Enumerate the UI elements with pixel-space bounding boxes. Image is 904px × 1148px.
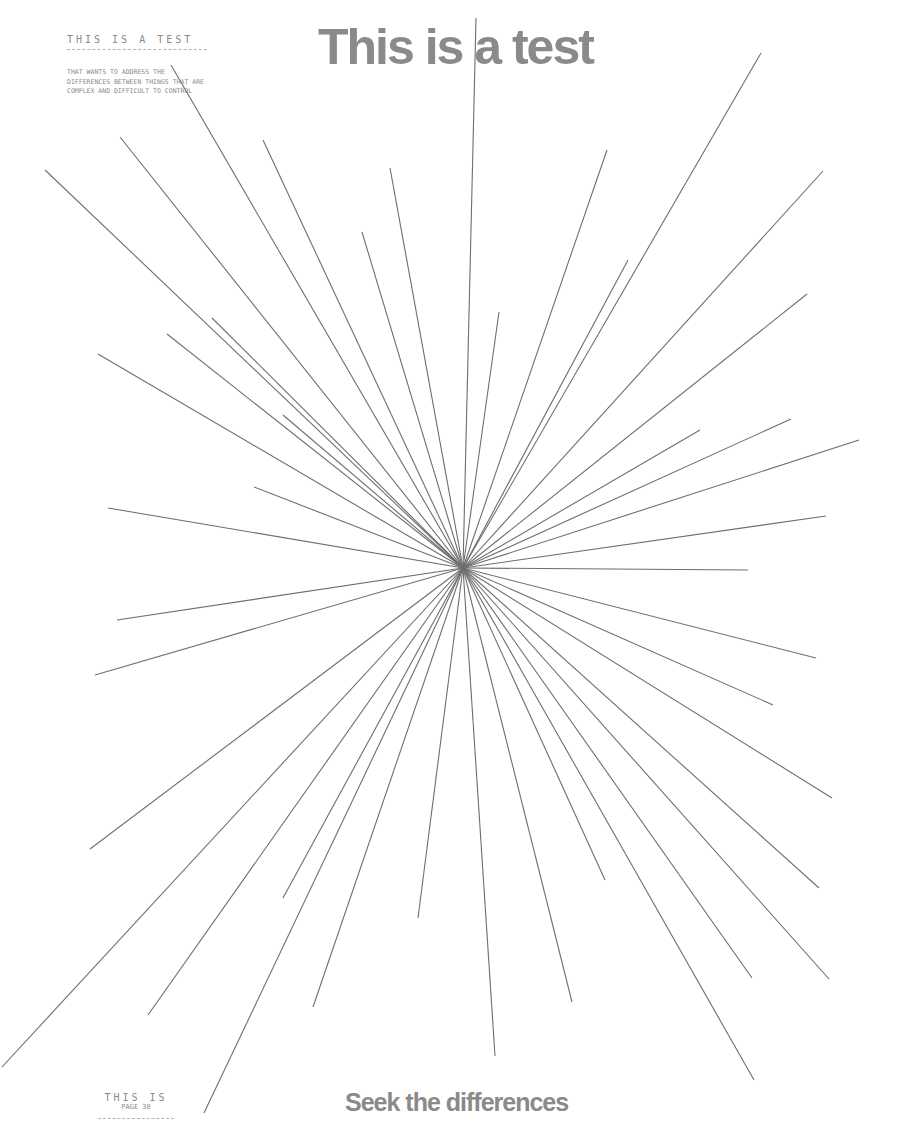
burst-ray: [463, 440, 859, 568]
burst-ray: [148, 568, 463, 1015]
burst-ray: [463, 568, 773, 705]
footer-tagline: Seek the differences: [345, 1090, 568, 1115]
burst-ray: [283, 415, 463, 568]
burst-ray: [463, 294, 807, 568]
page-number: PAGE 38: [98, 1103, 174, 1112]
burst-ray: [95, 568, 463, 675]
burst-ray: [463, 568, 829, 979]
burst-ray: [463, 568, 816, 658]
burst-ray: [463, 568, 495, 1056]
burst-ray: [2, 568, 463, 1067]
burst-ray: [463, 568, 605, 880]
burst-ray: [463, 568, 748, 570]
burst-ray: [463, 53, 761, 568]
burst-ray: [167, 334, 463, 568]
burst-ray: [463, 516, 826, 568]
burst-ray: [90, 568, 463, 849]
page-marker: THIS IS PAGE 38: [98, 1092, 174, 1119]
burst-ray: [254, 487, 463, 568]
header-kicker: THIS IS A TEST: [67, 34, 207, 46]
header-divider: [67, 49, 207, 50]
burst-ray: [463, 430, 700, 568]
burst-ray: [463, 568, 752, 978]
burst-ray: [313, 568, 463, 1007]
burst-ray: [171, 65, 463, 568]
page-title: This is a test: [318, 22, 593, 72]
burst-ray: [418, 568, 463, 918]
burst-ray: [204, 568, 463, 1113]
burst-ray: [117, 568, 463, 620]
burst-ray: [463, 568, 832, 798]
radial-line-burst: [0, 0, 904, 1148]
burst-ray: [45, 170, 463, 568]
burst-ray: [463, 150, 607, 568]
burst-ray: [390, 168, 463, 568]
burst-ray: [463, 568, 572, 1002]
burst-ray: [463, 568, 754, 1080]
burst-ray: [463, 171, 823, 568]
footer-kicker: THIS IS: [98, 1092, 174, 1103]
burst-ray: [463, 568, 819, 888]
header-block: THIS IS A TEST THAT WANTS TO ADDRESS THE…: [67, 34, 207, 97]
footer-divider: [98, 1118, 174, 1119]
burst-ray: [463, 419, 791, 568]
header-blurb: THAT WANTS TO ADDRESS THE DIFFERENCES BE…: [67, 68, 207, 97]
